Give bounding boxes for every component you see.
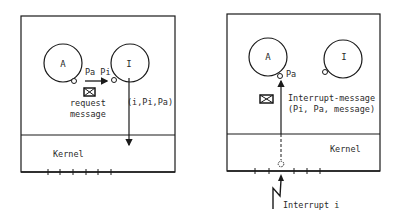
right-process-a-label: A bbox=[265, 52, 271, 62]
right-port-label: Pa bbox=[286, 69, 296, 79]
right-interrupt-handler-dashed-circle bbox=[278, 161, 284, 167]
left-port-pi bbox=[112, 78, 117, 83]
left-process-a-label: A bbox=[60, 59, 66, 69]
left-message-label-1: request bbox=[70, 98, 106, 108]
right-message-label-2: (Pi, Pa, message) bbox=[288, 104, 375, 114]
right-port-pa bbox=[278, 74, 283, 79]
right-kernel-label: Kernel bbox=[330, 144, 361, 154]
envelope-icon bbox=[84, 88, 95, 96]
right-message-label-1: Interrupt-message bbox=[288, 93, 375, 103]
right-panel: A Pa I Interrupt-message (Pi, Pa, messag… bbox=[227, 14, 380, 210]
left-call-label: (i,Pi,Pa) bbox=[127, 97, 173, 107]
interrupt-label: Interrupt i bbox=[283, 200, 339, 210]
left-port-labels: Pa Pi bbox=[85, 67, 111, 77]
left-system-box bbox=[21, 16, 175, 172]
right-process-i-label: I bbox=[341, 52, 346, 62]
interrupt-diagram: A I Pa Pi request message (i,Pi,Pa) Kern… bbox=[0, 0, 397, 221]
right-port-pi bbox=[323, 70, 328, 75]
envelope-icon bbox=[260, 95, 273, 103]
left-panel: A I Pa Pi request message (i,Pi,Pa) Kern… bbox=[21, 16, 175, 175]
left-message-label-2: message bbox=[70, 109, 106, 119]
left-port-pa bbox=[72, 79, 77, 84]
left-kernel-label: Kernel bbox=[53, 149, 84, 159]
left-process-i-label: I bbox=[126, 59, 131, 69]
